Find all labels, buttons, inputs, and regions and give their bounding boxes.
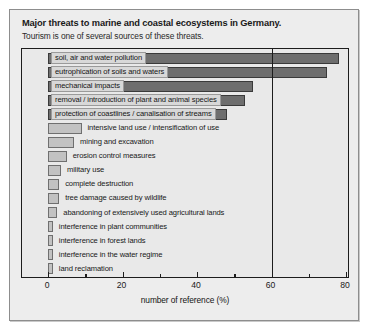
tick-minor <box>309 274 310 278</box>
bar-label: interference in forest lands <box>59 235 146 246</box>
bar-label: interference in the water regime <box>59 249 163 260</box>
caption-subtitle: Tourism is one of several sources of the… <box>22 30 348 42</box>
bar-row: interference in plant communities <box>22 220 348 234</box>
tick-major <box>197 272 198 278</box>
bar-label: removal / introduction of plant and anim… <box>51 94 221 106</box>
bar <box>48 179 59 190</box>
tick-minor <box>160 274 161 278</box>
tick-major <box>48 272 49 278</box>
chart-plot-area: soil, air and water pollutioneutrophicat… <box>21 48 349 278</box>
bar <box>48 249 53 260</box>
bar-label: intensive land use / intensification of … <box>88 122 220 133</box>
bar-row: protection of coastlines / canalisation … <box>22 107 348 121</box>
bar <box>48 221 53 232</box>
tick-major <box>123 272 124 278</box>
bar-label: erosion control measures <box>73 150 156 161</box>
bar-row: soil, air and water pollution <box>22 51 348 65</box>
x-tick-label: 60 <box>266 280 275 290</box>
bar <box>48 207 57 218</box>
caption-title: Major threats to marine and coastal ecos… <box>22 17 348 29</box>
bar-row: intensive land use / intensification of … <box>22 121 348 135</box>
bar-label: soil, air and water pollution <box>51 52 146 64</box>
figure-background: Major threats to marine and coastal ecos… <box>10 10 358 320</box>
bar-label: complete destruction <box>65 178 133 189</box>
bar <box>48 137 74 148</box>
bar <box>48 165 61 176</box>
tick-minor <box>85 274 86 278</box>
bar-label: tree damage caused by wildlife <box>65 192 166 203</box>
bar-label: abandoning of extensively used agricultu… <box>63 207 224 218</box>
bar-row: military use <box>22 163 348 177</box>
bar-rows: soil, air and water pollutioneutrophicat… <box>22 51 348 275</box>
bar-row: interference in forest lands <box>22 234 348 248</box>
bar-row: tree damage caused by wildlife <box>22 191 348 205</box>
bar-label: protection of coastlines / canalisation … <box>51 108 216 120</box>
bar-label: mechanical impacts <box>51 80 124 92</box>
bar-row: erosion control measures <box>22 149 348 163</box>
tick-major <box>346 272 347 278</box>
x-tick-label: 0 <box>45 280 50 290</box>
bar-row: removal / introduction of plant and anim… <box>22 93 348 107</box>
bar-label: interference in plant communities <box>59 221 167 232</box>
tick-major <box>272 272 273 278</box>
bar-label: mining and excavation <box>80 136 153 147</box>
bar <box>48 151 67 162</box>
bar <box>48 123 82 134</box>
bar <box>48 193 59 204</box>
bar-label: land reclamation <box>59 263 113 274</box>
bar-row: land reclamation <box>22 262 348 276</box>
bar-row: mining and excavation <box>22 135 348 149</box>
bar-row: complete destruction <box>22 177 348 191</box>
bar-row: abandoning of extensively used agricultu… <box>22 206 348 220</box>
axis-area: soil, air and water pollutioneutrophicat… <box>22 49 348 277</box>
bar <box>48 235 53 246</box>
bar-row: eutrophication of soils and waters <box>22 65 348 79</box>
bar-label: military use <box>67 164 104 175</box>
bar-label: eutrophication of soils and waters <box>51 66 168 78</box>
tick-minor <box>234 274 235 278</box>
figure-panel: Major threats to marine and coastal ecos… <box>9 9 359 321</box>
x-tick-label: 80 <box>340 280 349 290</box>
bar-row: mechanical impacts <box>22 79 348 93</box>
caption: Major threats to marine and coastal ecos… <box>22 17 348 42</box>
x-tick-label: 20 <box>117 280 126 290</box>
x-axis-title: number of reference (%) <box>21 295 349 305</box>
bar-row: interference in the water regime <box>22 248 348 262</box>
gridline <box>272 49 273 277</box>
x-tick-label: 40 <box>191 280 200 290</box>
x-axis-tick-labels: 020406080 <box>21 280 349 292</box>
